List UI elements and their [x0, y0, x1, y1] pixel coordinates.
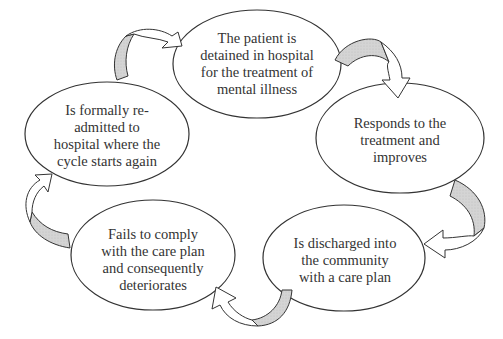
node-detained-line: for the treatment of: [200, 64, 314, 81]
node-fails: Fails to comply with the care plan and c…: [76, 220, 230, 300]
node-responds-line: treatment and: [354, 132, 447, 149]
node-fails-line: deteriorates: [101, 277, 204, 294]
node-discharged-line: with a care plan: [294, 269, 397, 286]
arrow-readmitted-to-detained-icon: [114, 29, 182, 80]
node-discharged-line: the community: [294, 252, 397, 269]
node-detained-line: detained in hospital: [200, 47, 314, 64]
arrow-fails-to-readmitted-icon: [26, 174, 70, 248]
node-detained-line: mental illness: [200, 81, 314, 98]
node-discharged: Is discharged into the community with a …: [270, 230, 420, 290]
arrow-responds-to-discharged-icon: [424, 180, 485, 258]
node-readmitted-line: admitted to: [54, 119, 160, 136]
node-discharged-line: Is discharged into: [294, 235, 397, 252]
node-readmitted-line: cycle starts again: [54, 153, 160, 170]
node-readmitted: Is formally re- admitted to hospital whe…: [30, 96, 184, 176]
node-responds: Responds to the treatment and improves: [325, 110, 475, 170]
node-responds-line: Responds to the: [354, 115, 447, 132]
node-readmitted-line: Is formally re-: [54, 102, 160, 119]
node-detained-line: The patient is: [200, 30, 314, 47]
node-detained: The patient is detained in hospital for …: [180, 24, 334, 104]
node-responds-line: improves: [354, 149, 447, 166]
node-fails-line: and consequently: [101, 260, 204, 277]
node-readmitted-line: hospital where the: [54, 136, 160, 153]
node-fails-line: with the care plan: [101, 243, 204, 260]
node-fails-line: Fails to comply: [101, 226, 204, 243]
